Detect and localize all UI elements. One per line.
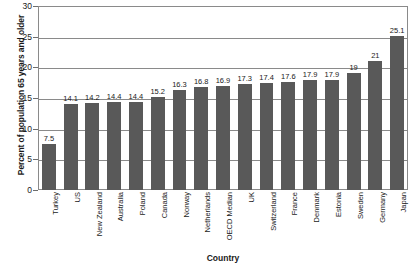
bar-group: 17.4 <box>260 6 274 190</box>
x-tick-label: Canada <box>161 192 169 218</box>
y-tick-label: 5 <box>2 155 32 164</box>
bar[interactable] <box>303 80 317 190</box>
bar-group: 14.2 <box>85 6 99 190</box>
bar-group: 16.9 <box>216 6 230 190</box>
bar-group: 21 <box>368 6 382 190</box>
bar[interactable] <box>64 104 78 190</box>
bar[interactable] <box>325 80 339 190</box>
x-tick-label: Turkey <box>52 192 60 215</box>
x-tick-label: Germany <box>379 192 387 223</box>
x-tick-label: US <box>74 192 82 202</box>
bar-group: 16.8 <box>194 6 208 190</box>
bar[interactable] <box>107 102 121 190</box>
bar-group: 19 <box>347 6 361 190</box>
y-tick-label: 20 <box>2 63 32 72</box>
x-tick-label: OECD Median <box>226 192 234 240</box>
bar-value-label: 19 <box>349 64 357 72</box>
x-tick-label: Netherlands <box>204 192 212 232</box>
bar-group: 17.3 <box>238 6 252 190</box>
bar[interactable] <box>216 86 230 190</box>
bar[interactable] <box>281 82 295 190</box>
bars-layer: 7.514.114.214.414.415.216.316.816.917.31… <box>38 6 408 190</box>
y-tick-label: 30 <box>2 2 32 11</box>
bar-value-label: 15.2 <box>150 88 165 96</box>
bar-value-label: 17.9 <box>324 71 339 79</box>
bar[interactable] <box>42 144 56 190</box>
bar[interactable] <box>85 103 99 190</box>
bar-value-label: 17.3 <box>237 75 252 83</box>
bar-group: 14.4 <box>129 6 143 190</box>
bar-value-label: 25.1 <box>390 27 405 35</box>
bar-value-label: 7.5 <box>44 135 54 143</box>
x-tick-label: Switzerland <box>270 192 278 231</box>
bar[interactable] <box>390 36 404 190</box>
x-axis-title: Country <box>38 253 408 263</box>
x-tick-label: Australia <box>117 192 125 221</box>
bar[interactable] <box>347 73 361 190</box>
y-tick-label: 10 <box>2 125 32 134</box>
bar-value-label: 16.8 <box>194 78 209 86</box>
x-tick-label: Estonia <box>335 192 343 217</box>
bar-value-label: 17.6 <box>281 73 296 81</box>
bar[interactable] <box>194 87 208 190</box>
bar-group: 25.1 <box>390 6 404 190</box>
x-tick-label: New Zealand <box>96 192 104 236</box>
bar[interactable] <box>238 84 252 190</box>
x-tick-label: Japan <box>400 192 408 212</box>
bar-group: 17.9 <box>325 6 339 190</box>
y-tick-label: 0 <box>2 186 32 195</box>
bar-chart: Percent of population 65 years and older… <box>0 0 412 272</box>
bar[interactable] <box>129 102 143 190</box>
bar-value-label: 14.4 <box>129 93 144 101</box>
x-tick-label: UK <box>248 192 256 202</box>
x-tick-label: Sweden <box>357 192 365 219</box>
bar-value-label: 16.3 <box>172 81 187 89</box>
x-tick-label: France <box>291 192 299 215</box>
bar-group: 17.9 <box>303 6 317 190</box>
bar-value-label: 17.9 <box>303 71 318 79</box>
bar[interactable] <box>260 83 274 190</box>
bar-group: 16.3 <box>173 6 187 190</box>
bar-value-label: 14.1 <box>63 95 78 103</box>
x-tick-label: Norway <box>183 192 191 217</box>
bar[interactable] <box>151 97 165 190</box>
bar-value-label: 16.9 <box>216 77 231 85</box>
bar-group: 14.4 <box>107 6 121 190</box>
bar[interactable] <box>173 90 187 190</box>
x-tick-label: Poland <box>139 192 147 215</box>
bar[interactable] <box>368 61 382 190</box>
y-tick-mark <box>33 190 38 191</box>
bar-group: 17.6 <box>281 6 295 190</box>
y-tick-label: 25 <box>2 33 32 42</box>
bar-group: 15.2 <box>151 6 165 190</box>
bar-value-label: 17.4 <box>259 74 274 82</box>
bar-value-label: 14.4 <box>107 93 122 101</box>
bar-value-label: 21 <box>371 52 379 60</box>
bar-group: 14.1 <box>64 6 78 190</box>
y-tick-label: 15 <box>2 94 32 103</box>
bar-value-label: 14.2 <box>85 94 100 102</box>
bar-group: 7.5 <box>42 6 56 190</box>
x-tick-label: Denmark <box>313 192 321 222</box>
x-axis-ticks: TurkeyUSNew ZealandAustraliaPolandCanada… <box>38 192 408 254</box>
